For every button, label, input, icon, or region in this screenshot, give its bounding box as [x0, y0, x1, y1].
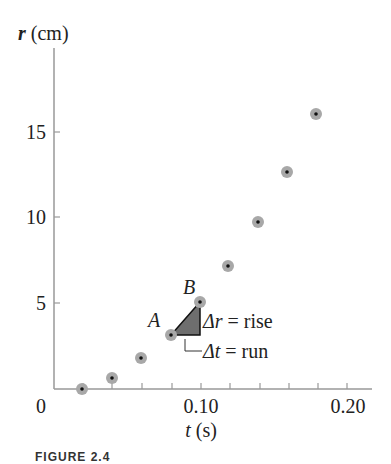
data-point: [252, 216, 264, 228]
x-ticks: [83, 383, 347, 389]
y-axis-title: r (cm): [18, 22, 69, 45]
origin-label: 0: [36, 395, 46, 417]
rise-delta: Δr: [202, 310, 223, 332]
x-axis-title: t (s): [185, 419, 217, 442]
run-label: Δt = run: [202, 340, 268, 362]
figure-caption: FIGURE 2.4: [35, 450, 110, 464]
y-tick-label-5: 5: [36, 292, 46, 314]
y-ticks: [54, 132, 60, 303]
data-point: [222, 260, 234, 272]
rise-label: Δr = rise: [202, 310, 273, 332]
point-a-label: A: [146, 309, 161, 331]
y-axis-symbol: r: [18, 22, 26, 44]
y-tick-label-10: 10: [26, 206, 46, 228]
y-axis-unit: (cm): [26, 22, 69, 45]
data-point: [106, 372, 118, 384]
x-axis-unit: (s): [191, 419, 217, 442]
data-point: [310, 108, 322, 120]
data-points: [76, 108, 322, 395]
point-b-label: B: [183, 276, 195, 298]
data-point: [76, 383, 88, 395]
data-point-a: [165, 329, 177, 341]
slope-triangle: [171, 302, 200, 335]
data-point: [281, 166, 293, 178]
data-point: [135, 352, 147, 364]
x-tick-label-0.20: 0.20: [331, 395, 366, 417]
run-delta: Δt: [202, 340, 221, 362]
y-tick-label-15: 15: [26, 121, 46, 143]
rise-text: = rise: [223, 310, 273, 332]
x-tick-label-0.10: 0.10: [184, 395, 219, 417]
run-text: = run: [220, 340, 268, 362]
data-point-b: [194, 296, 206, 308]
run-leader-line: [185, 339, 202, 351]
